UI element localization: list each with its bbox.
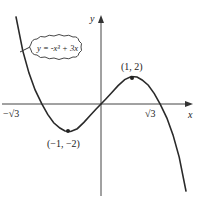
x-axis-label: x <box>187 109 193 120</box>
equation-label: y = -x³ + 3x <box>36 43 78 53</box>
function-graph: y = -x³ + 3x y x −√3 √3 (1, 2) (−1, −2) <box>0 0 204 204</box>
pos-root-label: √3 <box>145 108 156 119</box>
x-axis <box>2 101 193 107</box>
local-min-label: (−1, −2) <box>47 138 80 150</box>
y-axis-arrow-icon <box>98 15 104 23</box>
local-min-point <box>66 129 70 133</box>
local-max-point <box>130 76 134 80</box>
equation-callout: y = -x³ + 3x <box>20 35 82 60</box>
x-axis-arrow-icon <box>185 101 193 107</box>
neg-root-label: −√3 <box>3 108 19 119</box>
y-axis-label: y <box>89 13 95 24</box>
local-max-label: (1, 2) <box>121 61 143 73</box>
